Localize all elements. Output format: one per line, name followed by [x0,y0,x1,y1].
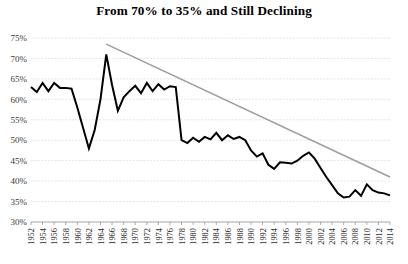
x-tick-label: 1968 [120,228,129,245]
x-tick-label: 2002 [317,228,326,245]
x-tick-label: 2004 [328,227,337,245]
gridlines [31,38,390,222]
x-tick-label: 1958 [62,228,71,245]
x-tick-label: 1972 [143,228,152,245]
x-tick-label: 1990 [247,228,256,245]
x-tick-label: 1954 [39,227,48,245]
x-tick-label: 1962 [85,228,94,245]
x-axis [31,222,390,225]
y-tick-label: 60% [11,95,28,105]
x-tick-label: 2012 [375,228,384,245]
y-tick-label: 30% [11,217,28,227]
x-tick-label: 1984 [212,227,221,245]
x-tick-label: 1964 [97,227,106,245]
x-axis-tick-labels: 1952195419561958196019621964196619681970… [27,227,395,245]
x-tick-label: 1976 [166,228,175,245]
x-tick-label: 1988 [236,228,245,245]
y-tick-label: 50% [11,135,28,145]
data-line-series [31,54,390,197]
y-tick-label: 40% [11,176,28,186]
x-tick-label: 1982 [201,228,210,245]
y-tick-label: 75% [11,33,28,43]
x-tick-label: 1994 [270,227,279,245]
chart-container: From 70% to 35% and Still Declining 30%3… [0,0,408,264]
x-tick-label: 1992 [259,228,268,245]
x-tick-label: 2006 [340,228,349,245]
x-tick-label: 2014 [386,227,395,245]
chart-plot-area: 30%35%40%45%50%55%60%65%70%75% 195219541… [0,0,408,264]
y-axis-tick-labels: 30%35%40%45%50%55%60%65%70%75% [11,33,28,227]
trend-line-series [106,44,390,177]
y-tick-label: 35% [11,197,28,207]
x-tick-label: 1998 [294,228,303,245]
x-tick-label: 1980 [189,228,198,245]
y-tick-label: 45% [11,156,28,166]
x-tick-label: 2000 [305,228,314,245]
x-tick-label: 1960 [74,228,83,245]
trend-line [106,44,390,177]
y-tick-label: 55% [11,115,28,125]
data-line [31,54,390,197]
x-tick-label: 1978 [178,228,187,245]
x-tick-label: 1986 [224,228,233,245]
y-tick-label: 65% [11,74,28,84]
x-tick-label: 1966 [108,228,117,245]
x-tick-label: 1970 [131,228,140,245]
y-tick-label: 70% [11,54,28,64]
x-tick-label: 1952 [27,228,36,245]
x-tick-label: 2008 [351,228,360,245]
x-tick-label: 2010 [363,228,372,245]
x-tick-label: 1996 [282,228,291,245]
x-tick-label: 1974 [155,227,164,245]
x-tick-label: 1956 [50,228,59,245]
